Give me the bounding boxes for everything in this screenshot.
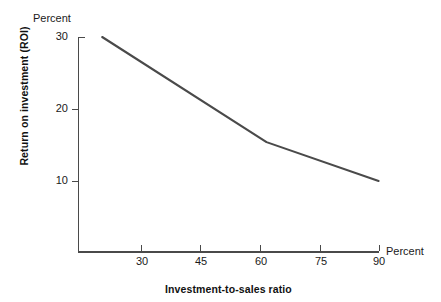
plot-area bbox=[0, 0, 441, 302]
chart-container: Percent 30 20 10 30 45 60 75 90 Percent … bbox=[0, 0, 441, 302]
data-series-line bbox=[102, 37, 378, 181]
